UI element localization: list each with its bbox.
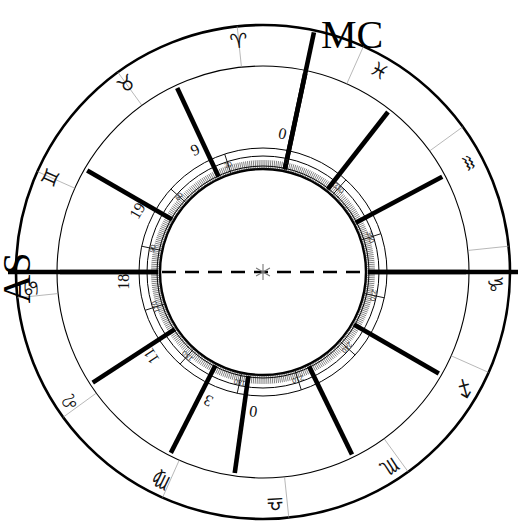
zodiac-glyph-capricorn: ♑: [483, 275, 508, 294]
cusp-8: [309, 366, 352, 454]
house-cusp-lines: [8, 32, 518, 473]
degree-label-120: 120: [150, 300, 160, 313]
cusp-11: [356, 177, 443, 223]
cusp-12: [328, 112, 388, 189]
mc-axis-label: MC: [321, 12, 383, 57]
house-number-cusp-2: 9: [188, 140, 202, 159]
cusp-9: [354, 325, 439, 374]
degree-label-0: 0: [284, 158, 289, 166]
cusp-ic: [235, 376, 249, 473]
as-axis-label: AS: [0, 252, 39, 303]
chart-canvas: ♈♉♊♋♌♍♎♏♐♑♒♓ 0919181130 3060901201501802…: [0, 0, 518, 531]
degree-label-300: 300: [365, 230, 375, 243]
zodiac-glyph-gemini: ♊: [36, 164, 65, 190]
degree-label-30: 30: [223, 160, 233, 169]
zodiac-glyph-libra: ♎: [266, 492, 285, 517]
house-number-cusp-as: 18: [115, 274, 132, 290]
cusp-5: [93, 329, 175, 382]
cusp-2: [177, 88, 218, 177]
astrology-chart-wheel: ♈♉♊♋♌♍♎♏♐♑♒♓ 0919181130 3060901201501802…: [0, 0, 518, 531]
house-number-cusp-mc: 0: [277, 124, 288, 142]
house-number-cusp-ic: 0: [248, 403, 258, 421]
degree-label-90: 90: [148, 244, 156, 253]
zodiac-glyph-aries: ♈: [229, 28, 249, 54]
degree-label-210: 210: [291, 374, 304, 384]
